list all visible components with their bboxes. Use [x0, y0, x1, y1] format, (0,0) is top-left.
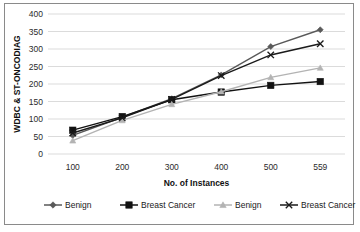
series-4 [70, 41, 324, 137]
x-axis-tick-label: 200 [115, 162, 129, 172]
x-axis-tick-label: 300 [165, 162, 179, 172]
series-layer [70, 27, 324, 143]
y-axis-tick-labels: 050100150200250300350400 [29, 9, 43, 159]
y-axis-tick-label: 100 [29, 114, 43, 124]
series-line [73, 82, 321, 131]
y-axis-tick-label: 50 [34, 132, 44, 142]
legend-label: Breast Cancer [301, 200, 355, 210]
chart-legend: BenignBreast CancerBenignBreast Cancer [44, 200, 355, 210]
y-axis-tick-label: 400 [29, 9, 43, 19]
line-chart: 050100150200250300350400 100200300400500… [0, 0, 360, 232]
y-axis-tick-label: 250 [29, 62, 43, 72]
x-axis-tick-label: 100 [66, 162, 80, 172]
x-axis-tick-labels: 100200300400500559 [66, 162, 328, 172]
chart-figure: 050100150200250300350400 100200300400500… [0, 0, 360, 232]
data-point-diamond-marker [50, 202, 56, 208]
legend-label: Benign [65, 200, 92, 210]
legend-label: Benign [235, 200, 262, 210]
data-point-square-marker [126, 202, 132, 208]
x-axis-title: No. of Instances [164, 178, 230, 188]
y-axis-tick-label: 300 [29, 44, 43, 54]
y-axis-title: WDBC & ST-ONCODIAG [12, 35, 22, 133]
x-axis-tick-label: 500 [264, 162, 278, 172]
y-axis-tick-label: 150 [29, 97, 43, 107]
data-point-square-marker [268, 82, 274, 88]
legend-item-1[interactable]: Benign [44, 200, 92, 210]
data-point-square-marker [317, 78, 323, 84]
y-axis-tick-label: 200 [29, 79, 43, 89]
legend-item-2[interactable]: Breast Cancer [120, 200, 195, 210]
y-axis-tick-label: 350 [29, 27, 43, 37]
x-axis-tick-label: 559 [313, 162, 327, 172]
x-axis-tick-label: 400 [214, 162, 228, 172]
legend-item-4[interactable]: Breast Cancer [280, 200, 355, 210]
series-3 [70, 65, 324, 143]
y-axis-tick-label: 0 [38, 149, 43, 159]
legend-item-3[interactable]: Benign [214, 200, 262, 210]
series-line [73, 68, 321, 141]
legend-label: Breast Cancer [141, 200, 195, 210]
